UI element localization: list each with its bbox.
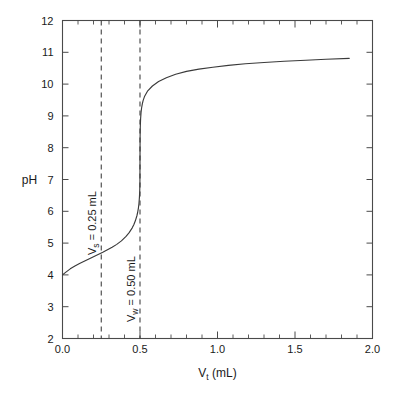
y-tick-label: 7 xyxy=(47,174,53,186)
y-tick-label: 2 xyxy=(47,333,53,345)
x-tick-label: 1.0 xyxy=(210,343,225,355)
y-tick-label: 4 xyxy=(47,269,53,281)
y-tick-label: 10 xyxy=(41,78,53,90)
x-tick-label: 0.0 xyxy=(55,343,70,355)
annot-rest: = 0.50 mL xyxy=(125,256,137,308)
x-axis-title-base: V xyxy=(198,366,206,380)
vs-marker-label: Vs = 0.25 mL xyxy=(86,191,101,255)
y-tick-label: 12 xyxy=(41,15,53,27)
vw-marker-label-group: Vw = 0.50 mL xyxy=(125,256,140,322)
chart-figure: 0.00.51.01.52.0 23456789101112 Vs = 0.25… xyxy=(0,0,393,399)
titration-curve-path xyxy=(63,58,350,275)
y-tick-label: 3 xyxy=(47,301,53,313)
data-series-curve xyxy=(63,58,350,275)
titration-curve-plot: 0.00.51.01.52.0 23456789101112 Vs = 0.25… xyxy=(0,0,393,399)
vs-marker-label-group: Vs = 0.25 mL xyxy=(86,191,101,255)
x-axis-title-unit: (mL) xyxy=(209,366,237,380)
y-tick-label: 5 xyxy=(47,237,53,249)
y-tick-label: 11 xyxy=(42,46,53,58)
annot-rest: = 0.25 mL xyxy=(86,191,98,243)
y-tick-label: 9 xyxy=(47,110,53,122)
x-tick-label: 2.0 xyxy=(365,343,380,355)
y-axis-title: pH xyxy=(22,173,37,187)
y-tick-label: 8 xyxy=(47,142,53,154)
x-axis-ticks xyxy=(63,21,373,339)
x-tick-label: 1.5 xyxy=(287,343,302,355)
y-tick-label: 6 xyxy=(47,205,53,217)
vw-marker-label: Vw = 0.50 mL xyxy=(125,256,140,322)
axes-box xyxy=(63,21,373,339)
plot-frame xyxy=(63,21,373,339)
x-axis-tick-labels: 0.00.51.01.52.0 xyxy=(55,343,380,355)
y-axis-ticks xyxy=(63,21,373,339)
y-axis-tick-labels: 23456789101112 xyxy=(41,15,53,345)
x-tick-label: 0.5 xyxy=(132,343,147,355)
x-axis-title: Vt (mL) xyxy=(198,366,236,382)
